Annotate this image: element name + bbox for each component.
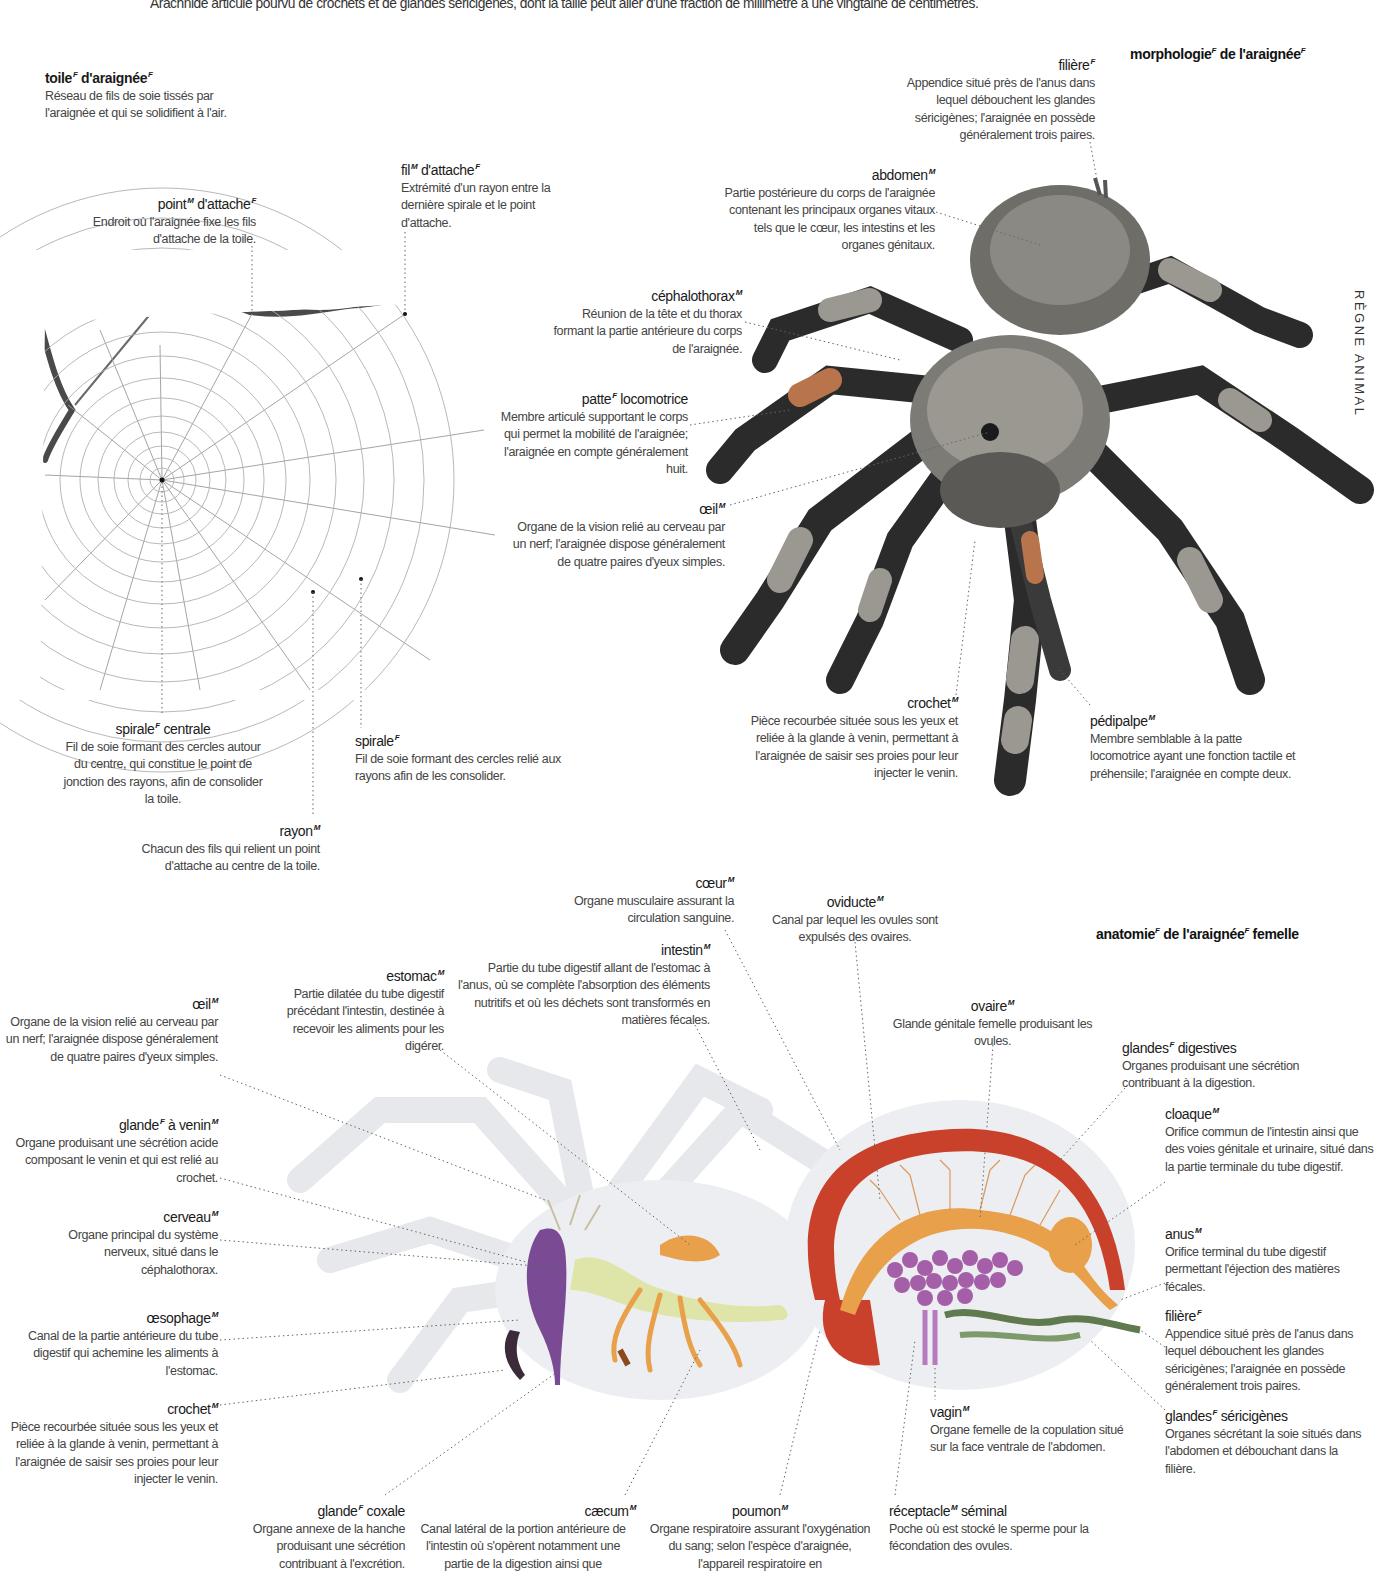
section-tab-regne-animal[interactable]: RÈGNE ANIMAL: [1352, 290, 1367, 418]
term-text: cæcum: [585, 1503, 629, 1519]
term: pédipalpeM: [1090, 709, 1300, 731]
tarantula-illustration: [720, 178, 1360, 780]
term-text: cloaque: [1165, 1106, 1212, 1122]
description: Canal de la partie antérieure du tube di…: [20, 1328, 218, 1381]
label-crochet-morpho: crochetM Pièce recourbée située sous les…: [730, 691, 958, 783]
description: Appendice situé près de l'anus dans lequ…: [1165, 1326, 1380, 1396]
term: intestinM: [455, 938, 710, 960]
term: œilM: [505, 497, 725, 519]
description: Organe de la vision relié au cerveau par…: [2, 1014, 218, 1067]
coxal-gland: [620, 1350, 628, 1365]
abdomen-shape: [785, 1100, 1135, 1390]
title-term: anatomie: [1096, 926, 1155, 942]
label-caecum: cæcumM Canal latéral de la portion antér…: [410, 1499, 636, 1573]
term-text: d'attache: [194, 196, 251, 212]
term-text: intestin: [661, 942, 703, 958]
term-text: cerveau: [163, 1209, 210, 1225]
term: anusM: [1165, 1222, 1375, 1244]
vagina: [925, 1310, 935, 1365]
eye: [981, 423, 999, 441]
term-text: séricigènes: [1217, 1408, 1288, 1424]
term: réceptacleM séminal: [889, 1499, 1089, 1521]
term-text: patte: [582, 391, 611, 407]
label-oviducte: oviducteM Canal par lequel les ovules so…: [755, 890, 955, 947]
gender-mark: M: [1149, 713, 1155, 722]
gender-mark: M: [963, 1404, 969, 1413]
description: Appendice situé près de l'anus dans lequ…: [880, 75, 1095, 145]
term: pointM d'attacheF: [60, 192, 256, 214]
term: cerveauM: [30, 1205, 218, 1227]
label-patte-locomotrice: patteF locomotrice Membre articulé suppo…: [490, 387, 688, 479]
heart: [808, 1129, 1125, 1300]
term-text: œsophage: [147, 1310, 211, 1326]
description: Fil de soie formant des cercles autour d…: [58, 739, 268, 809]
description: Réseau de fils de soie tissés par l'arai…: [45, 88, 245, 123]
description: Organe principal du système nerveux, sit…: [30, 1227, 218, 1280]
term: toileF d'araignéeF: [45, 66, 245, 88]
leg-4: [840, 470, 950, 680]
stomach: [660, 1235, 720, 1261]
description: Organes produisant une sécrétion contrib…: [1122, 1058, 1332, 1093]
label-fil-attache: filM d'attacheF Extrémité d'un rayon ent…: [401, 158, 581, 232]
term-text: digestives: [1174, 1040, 1236, 1056]
gender-mark: F: [1090, 57, 1095, 66]
gender-mark: M: [212, 1117, 218, 1126]
digestive-glands: [870, 1160, 1060, 1225]
term: crochetM: [730, 691, 958, 713]
title-term: morphologie: [1130, 46, 1211, 62]
term: abdomenM: [720, 163, 935, 185]
description: Organe annexe de la hanche produisant un…: [228, 1521, 405, 1574]
term-text: céphalothorax: [651, 288, 734, 304]
term: glandesF digestives: [1122, 1036, 1332, 1058]
label-spirale-centrale: spiraleF centrale Fil de soie formant de…: [58, 717, 268, 809]
description: Endroit où l'araignée fixe les fils d'at…: [60, 214, 256, 249]
gender-mark: M: [877, 894, 883, 903]
term-text: filière: [1165, 1308, 1196, 1324]
leg-6: [1100, 380, 1360, 490]
leg-5: [1080, 270, 1300, 335]
gender-mark: F: [251, 196, 256, 205]
description: Orifice commun de l'intestin ainsi que d…: [1165, 1124, 1375, 1177]
description: Réunion de la tête et du thorax formant …: [550, 306, 742, 359]
gender-mark: F: [1197, 1308, 1202, 1317]
term: rayonM: [100, 819, 320, 841]
label-spirale: spiraleF Fil de soie formant des cercles…: [355, 729, 575, 786]
web-radii: [45, 314, 495, 690]
label-anus: anusM Orifice terminal du tube digestif …: [1165, 1222, 1375, 1296]
leg-8: [1010, 520, 1030, 780]
description: Chacun des fils qui relient un point d'a…: [100, 841, 320, 876]
term-text: rayon: [279, 823, 312, 839]
silk-glands: [945, 1313, 1140, 1330]
gender-mark: F: [395, 733, 400, 742]
description: Organe produisant une sécrétion acide co…: [2, 1135, 218, 1188]
label-intestin: intestinM Partie du tube digestif allant…: [455, 938, 710, 1030]
term-text: point: [158, 196, 187, 212]
term-text: œil: [699, 501, 717, 517]
term-text: spirale: [116, 721, 155, 737]
term: oviducteM: [755, 890, 955, 912]
description: Canal latéral de la portion antérieure d…: [410, 1521, 636, 1574]
term: céphalothoraxM: [550, 284, 742, 306]
term-text: crochet: [167, 1401, 210, 1417]
gender-mark: M: [1195, 1226, 1201, 1235]
cephalothorax: [910, 335, 1110, 505]
term-text: anus: [1165, 1226, 1194, 1242]
term-text: glande: [318, 1503, 358, 1519]
label-oesophage: œsophageM Canal de la partie antérieure …: [20, 1306, 218, 1380]
caeca: [614, 1290, 740, 1370]
leg-1: [765, 300, 960, 360]
gender-mark: M: [314, 823, 320, 832]
label-cephalothorax: céphalothoraxM Réunion de la tête et du …: [550, 284, 742, 358]
fang: [505, 1330, 525, 1380]
term: filièreF: [1165, 1304, 1380, 1326]
description: Partie du tube digestif allant de l'esto…: [455, 960, 710, 1030]
description: Fil de soie formant des cercles relié au…: [355, 751, 575, 786]
gender-mark: M: [952, 695, 958, 704]
term: glandeF coxale: [228, 1499, 405, 1521]
term-text: vagin: [930, 1404, 962, 1420]
term-text: pédipalpe: [1090, 713, 1148, 729]
label-glande-coxale: glandeF coxale Organe annexe de la hanch…: [228, 1499, 405, 1573]
gender-mark: M: [1213, 1106, 1219, 1115]
anatomy-illustration: [300, 1070, 1140, 1400]
term: filM d'attacheF: [401, 158, 581, 180]
